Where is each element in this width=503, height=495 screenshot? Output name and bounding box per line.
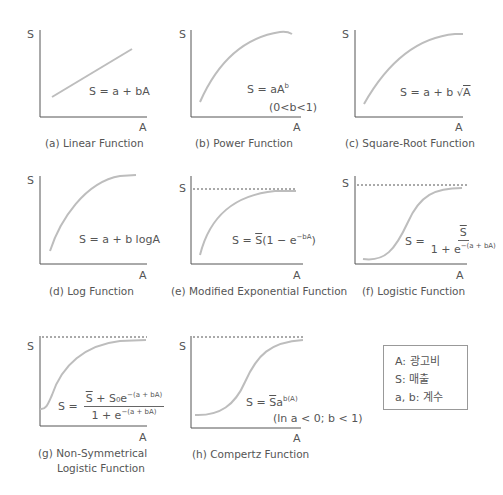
y-axis-label: S xyxy=(27,28,34,41)
s-bar: S xyxy=(460,226,467,239)
denominator-exponent: −(a + bA) xyxy=(461,242,496,250)
numerator: S xyxy=(458,226,469,241)
y-axis-label: S xyxy=(27,174,34,187)
s-bar: S xyxy=(86,392,93,405)
panel-modified-exponential: S A S = S(1 − e−bA) (e) Modified Exponen… xyxy=(165,160,330,310)
x-axis-label: A xyxy=(456,269,464,282)
equation-exponent: −bA xyxy=(296,233,311,241)
denominator-base: 1 + e xyxy=(91,409,121,422)
equation: S = a + b logA xyxy=(79,233,160,246)
legend-box: A: 광고비 S: 매출 a, b: 계수 xyxy=(383,345,468,410)
caption: (c) Square-Root Function xyxy=(345,137,475,149)
panel-non-symmetrical-logistic: S A S = S + S₀e−(a + bA) 1 + e−(a + bA) … xyxy=(0,320,165,495)
condition: (ln a < 0; b < 1) xyxy=(273,412,362,425)
panel-logistic: S A S = S 1 + e−(a + bA) (f) Logistic Fu… xyxy=(330,160,503,310)
equation: S = S + S₀e−(a + bA) 1 + e−(a + bA) xyxy=(58,391,164,422)
panel-square-root: S A S = a + b √A (c) Square-Root Functio… xyxy=(330,0,503,150)
x-axis-label: A xyxy=(139,121,147,134)
x-axis-label: A xyxy=(293,121,301,134)
equation: S = S(1 − e−bA) xyxy=(232,233,316,247)
x-axis-label: A xyxy=(293,432,301,445)
y-axis-label: S xyxy=(27,340,34,353)
y-axis-label: S xyxy=(179,28,186,41)
numerator-exponent: −(a + bA) xyxy=(127,391,162,399)
y-axis-label: S xyxy=(179,182,186,195)
x-axis-label: A xyxy=(455,121,463,134)
condition: (0<b<1) xyxy=(269,101,317,114)
y-axis-label: S xyxy=(179,340,186,353)
equation-exponent: b(A) xyxy=(283,395,298,403)
equation: S = a + bA xyxy=(89,85,150,98)
legend-item-sales: S: 매출 xyxy=(395,370,429,386)
numerator: S + S₀e−(a + bA) xyxy=(84,391,165,407)
caption-line-2: Logistic Function xyxy=(57,462,145,474)
equation-prefix: S = a + b xyxy=(400,86,457,99)
denominator-base: 1 + e xyxy=(431,243,461,256)
panel-linear: S A S = a + bA (a) Linear Function xyxy=(0,0,165,150)
caption: (a) Linear Function xyxy=(45,137,144,149)
legend-item-advertising-cost: A: 광고비 xyxy=(395,352,440,368)
square-root-chart xyxy=(330,0,503,150)
panel-compertz: S A S = Sab(A) (ln a < 0; b < 1) (h) Com… xyxy=(165,320,365,495)
numerator-term: + S₀e xyxy=(93,392,127,405)
equation-base: a xyxy=(276,396,283,409)
panel-power: S A S = aAb (0<b<1) (b) Power Function xyxy=(165,0,330,150)
equation-lhs: S = xyxy=(405,235,425,248)
denominator-exponent: −(a + bA) xyxy=(121,408,156,416)
fraction: S + S₀e−(a + bA) 1 + e−(a + bA) xyxy=(84,391,165,422)
radicand: A xyxy=(463,86,471,99)
caption: (b) Power Function xyxy=(195,137,293,149)
caption-line-1: (g) Non-Symmetrical xyxy=(38,447,147,459)
y-axis-label: S xyxy=(342,177,349,190)
equation: S = a + b √A xyxy=(400,86,471,99)
equation: S = Sab(A) xyxy=(246,395,298,409)
denominator: 1 + e−(a + bA) xyxy=(91,407,156,422)
equation-lhs: S = xyxy=(246,396,269,409)
equation-main: S = aA xyxy=(247,83,284,96)
legend-item-coefficients: a, b: 계수 xyxy=(395,388,443,404)
panel-log: S A S = a + b logA (d) Log Function xyxy=(0,160,165,310)
equation-mid: (1 − e xyxy=(262,234,296,247)
power-chart xyxy=(165,0,330,150)
caption: (h) Compertz Function xyxy=(192,448,309,460)
equation-exponent: b xyxy=(284,82,288,90)
x-axis-label: A xyxy=(293,269,301,282)
x-axis-label: A xyxy=(139,269,147,282)
x-axis-label: A xyxy=(139,431,147,444)
equation: S = S 1 + e−(a + bA) xyxy=(405,226,496,256)
caption: (d) Log Function xyxy=(49,285,134,297)
fraction: S 1 + e−(a + bA) xyxy=(431,226,496,256)
equation-lhs: S = xyxy=(232,234,255,247)
equation-close: ) xyxy=(312,234,316,247)
caption: (f) Logistic Function xyxy=(362,285,465,297)
caption: (e) Modified Exponential Function xyxy=(171,285,347,297)
equation-lhs: S = xyxy=(58,400,78,413)
equation: S = aAb xyxy=(247,82,289,96)
y-axis-label: S xyxy=(342,28,349,41)
denominator: 1 + e−(a + bA) xyxy=(431,241,496,256)
